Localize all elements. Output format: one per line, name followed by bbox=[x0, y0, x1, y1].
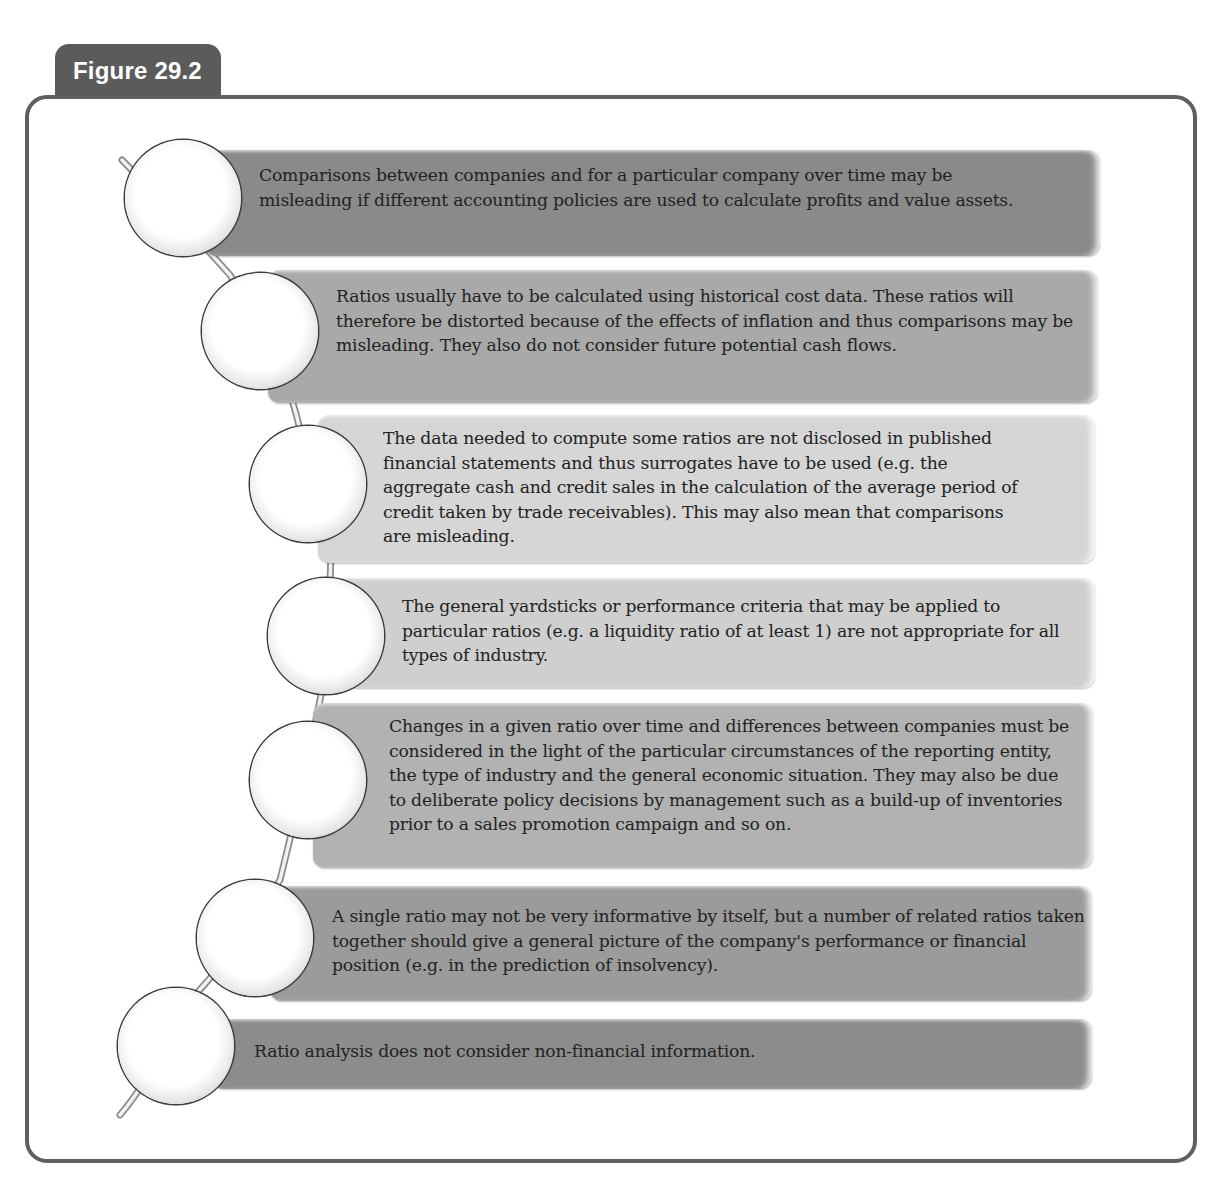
item-text: A single ratio may not be very informati… bbox=[332, 904, 1092, 978]
item-text: Ratio analysis does not consider non-fin… bbox=[254, 1039, 1054, 1064]
bullet-circle-icon bbox=[197, 880, 313, 996]
bullet-circle-icon bbox=[125, 140, 241, 256]
item-text: The general yardsticks or performance cr… bbox=[402, 594, 1062, 668]
bullet-circle-icon bbox=[118, 988, 234, 1104]
item-text: Ratios usually have to be calculated usi… bbox=[336, 284, 1076, 358]
bullet-circle-icon bbox=[268, 578, 384, 694]
limitation-item-3: The data needed to compute some ratios a… bbox=[318, 415, 1095, 563]
limitation-item-4: The general yardsticks or performance cr… bbox=[330, 578, 1095, 688]
limitation-item-7: Ratio analysis does not consider non-fin… bbox=[212, 1019, 1092, 1089]
item-text: Changes in a given ratio over time and d… bbox=[389, 714, 1079, 837]
bullet-circle-icon bbox=[250, 426, 366, 542]
limitation-item-1: Comparisons between companies and for a … bbox=[205, 150, 1100, 256]
item-text: The data needed to compute some ratios a… bbox=[383, 426, 1033, 549]
bullet-circle-icon bbox=[250, 722, 366, 838]
limitation-item-6: A single ratio may not be very informati… bbox=[270, 886, 1092, 1001]
bullet-circle-icon bbox=[202, 273, 318, 389]
item-text: Comparisons between companies and for a … bbox=[259, 163, 1049, 212]
limitation-item-2: Ratios usually have to be calculated usi… bbox=[268, 270, 1098, 403]
limitation-item-5: Changes in a given ratio over time and d… bbox=[313, 703, 1093, 868]
